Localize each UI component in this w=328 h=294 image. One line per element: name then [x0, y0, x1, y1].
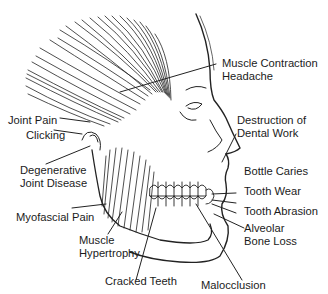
tmj-diagram: Muscle Contraction Headache Joint Pain C…	[0, 0, 328, 294]
nose	[208, 120, 222, 152]
label-cracked-teeth: Cracked Teeth	[105, 275, 177, 288]
label-destruction-dental-work: Destruction of Dental Work	[237, 114, 306, 139]
face-profile	[130, 14, 240, 262]
eye	[180, 86, 206, 120]
label-joint-pain: Joint Pain	[8, 114, 57, 127]
label-alveolar-bone-loss: Alveolar Bone Loss	[244, 222, 297, 247]
label-muscle-hypertrophy: Muscle Hypertrophy	[79, 234, 140, 259]
head-illustration	[0, 0, 328, 294]
masseter-muscle-fibers	[102, 148, 154, 232]
teeth	[150, 182, 214, 206]
label-tooth-abrasion: Tooth Abrasion	[244, 205, 318, 218]
label-bottle-caries: Bottle Caries	[244, 165, 308, 178]
label-muscle-contraction-headache: Muscle Contraction Headache	[222, 57, 318, 82]
label-clicking: Clicking	[26, 129, 65, 142]
label-myofascial-pain: Myofascial Pain	[16, 211, 94, 224]
label-tooth-wear: Tooth Wear	[244, 185, 301, 198]
ear	[82, 132, 101, 150]
temporalis-muscle-fibers	[26, 16, 171, 126]
label-degenerative-joint-disease: Degenerative Joint Disease	[20, 164, 87, 189]
label-malocclusion: Malocclusion	[201, 279, 266, 292]
